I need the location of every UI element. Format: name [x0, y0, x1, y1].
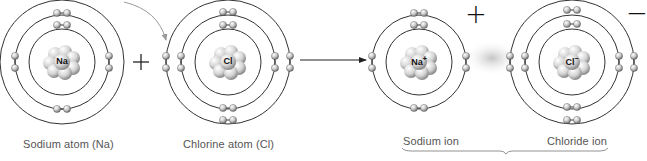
plus-sign-icon [133, 54, 149, 70]
ion-pair-bracket [402, 148, 608, 154]
chloride-ion-label: Chloride ion [547, 135, 607, 147]
sodium-atom-label: Sodium atom (Na) [23, 138, 114, 150]
electron-transfer-arrow [124, 2, 166, 40]
chloride-ion-nucleus-label: Cl− [565, 55, 578, 67]
chloride-ion-superscript: − [574, 55, 578, 62]
sodium-ion-nucleus-label: Na+ [411, 55, 427, 67]
ionic-bond-diagram: Na Cl Na+ Cl− + − Sodium atom (Na) Chlor… [0, 0, 647, 161]
positive-charge-sign: + [465, 1, 487, 27]
chlorine-atom-label: Chlorine atom (Cl) [183, 138, 274, 150]
sodium-ion-label: Sodium ion [403, 135, 459, 147]
sodium-ion-symbol: Na [411, 57, 423, 67]
sodium-nucleus-label: Na [56, 56, 68, 66]
negative-charge-sign: − [626, 0, 647, 26]
chlorine-nucleus-label: Cl [224, 56, 233, 66]
sodium-ion-superscript: + [423, 55, 427, 62]
chloride-ion-symbol: Cl [565, 57, 574, 67]
